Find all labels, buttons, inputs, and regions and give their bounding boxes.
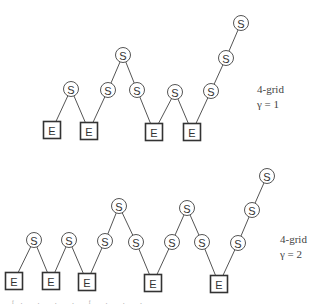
s-node: S: [231, 236, 246, 251]
gamma-label: γ = 2: [280, 247, 307, 262]
s-node: S: [98, 234, 113, 249]
e-node: E: [43, 273, 60, 290]
e-node: E: [211, 276, 228, 293]
e-node: E: [44, 122, 61, 139]
svg-text:S: S: [67, 84, 74, 96]
svg-text:E: E: [85, 126, 92, 138]
svg-text:S: S: [237, 18, 244, 30]
s-node: S: [130, 83, 145, 98]
s-node: S: [62, 233, 77, 248]
s-node: S: [180, 201, 195, 216]
s-node: S: [112, 199, 127, 214]
svg-text:E: E: [10, 276, 17, 288]
svg-text:E: E: [83, 277, 90, 289]
s-node: S: [101, 83, 116, 98]
diagram-canvas: ESESSSESESSS ESESESSSESSSESSS: [0, 0, 319, 306]
caption-fragment: ᶠ· · · · ᶠ · · ·: [12, 298, 148, 306]
nodes: ESESESSSESSSESSS: [6, 169, 275, 293]
svg-text:S: S: [101, 236, 108, 248]
svg-text:S: S: [222, 53, 229, 65]
grid-diagram-gamma-1: ESESSSESESSS: [44, 16, 249, 141]
svg-text:S: S: [198, 237, 205, 249]
nodes: ESESSSESESSS: [44, 16, 249, 141]
diagram-label-gamma-2: 4-grid γ = 2: [280, 232, 307, 262]
svg-text:S: S: [168, 237, 175, 249]
grid-type-label: 4-grid: [280, 232, 307, 247]
svg-text:S: S: [119, 50, 126, 62]
svg-text:E: E: [150, 127, 157, 139]
s-node: S: [129, 235, 144, 250]
grid-type-label: 4-grid: [257, 82, 284, 97]
s-node: S: [116, 48, 131, 63]
edges: [52, 23, 241, 132]
e-node: E: [79, 274, 96, 291]
s-node: S: [165, 235, 180, 250]
svg-text:S: S: [183, 203, 190, 215]
svg-text:S: S: [104, 85, 111, 97]
svg-text:E: E: [188, 127, 195, 139]
grid-diagram-gamma-2: ESESESSSESSSESSS: [6, 169, 275, 293]
svg-text:E: E: [48, 125, 55, 137]
svg-text:S: S: [133, 85, 140, 97]
s-node: S: [219, 51, 234, 66]
svg-text:S: S: [248, 205, 255, 217]
svg-text:S: S: [207, 86, 214, 98]
s-node: S: [64, 82, 79, 97]
gamma-label: γ = 1: [257, 97, 284, 112]
svg-text:E: E: [47, 276, 54, 288]
e-node: E: [6, 273, 23, 290]
svg-text:S: S: [234, 238, 241, 250]
svg-text:S: S: [263, 171, 270, 183]
s-node: S: [204, 84, 219, 99]
s-node: S: [168, 85, 183, 100]
s-node: S: [195, 235, 210, 250]
svg-text:E: E: [215, 279, 222, 291]
e-node: E: [146, 124, 163, 141]
svg-text:S: S: [115, 201, 122, 213]
svg-text:S: S: [132, 237, 139, 249]
e-node: E: [145, 275, 162, 292]
svg-text:E: E: [149, 278, 156, 290]
svg-text:S: S: [171, 87, 178, 99]
e-node: E: [184, 124, 201, 141]
svg-text:S: S: [65, 235, 72, 247]
e-node: E: [81, 123, 98, 140]
s-node: S: [245, 203, 260, 218]
edges: [14, 176, 267, 284]
s-node: S: [27, 233, 42, 248]
diagram-label-gamma-1: 4-grid γ = 1: [257, 82, 284, 112]
s-node: S: [260, 169, 275, 184]
s-node: S: [234, 16, 249, 31]
svg-text:S: S: [30, 235, 37, 247]
